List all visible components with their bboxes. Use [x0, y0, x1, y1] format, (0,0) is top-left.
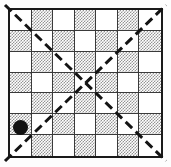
grid-cell-r6-c7 [139, 114, 161, 135]
grid-cell-r6-c4 [75, 114, 97, 135]
grid-cell-r7-c4 [75, 135, 97, 156]
figure-root [0, 0, 171, 167]
grid-cell-r3-c5 [96, 52, 118, 73]
grid-cell-r2-c1 [10, 31, 32, 52]
grid-cell-r2-c3 [53, 31, 75, 52]
grid-cell-r4-c5 [96, 73, 118, 94]
checkerboard-grid [10, 10, 161, 156]
grid-cell-r6-c6 [118, 114, 140, 135]
grid-cell-r5-c7 [139, 93, 161, 114]
grid-cell-r3-c4 [75, 52, 97, 73]
checkerboard-board [8, 8, 163, 158]
grid-cell-r6-c3 [53, 114, 75, 135]
grid-cell-r3-c7 [139, 52, 161, 73]
grid-cell-r4-c2 [32, 73, 54, 94]
grid-cell-r5-c6 [118, 93, 140, 114]
grid-cell-r1-c4 [75, 10, 97, 31]
grid-cell-r5-c3 [53, 93, 75, 114]
grid-cell-r1-c7 [139, 10, 161, 31]
grid-cell-r4-c1 [10, 73, 32, 94]
grid-cell-r7-c3 [53, 135, 75, 156]
grid-cell-r5-c1 [10, 93, 32, 114]
grid-cell-r1-c6 [118, 10, 140, 31]
grid-cell-r6-c2 [32, 114, 54, 135]
grid-cell-r7-c1 [10, 135, 32, 156]
grid-cell-r5-c4 [75, 93, 97, 114]
grid-cell-r2-c4 [75, 31, 97, 52]
grid-cell-r3-c2 [32, 52, 54, 73]
grid-cell-r7-c5 [96, 135, 118, 156]
grid-cell-r1-c1 [10, 10, 32, 31]
grid-cell-r3-c3 [53, 52, 75, 73]
grid-cell-r2-c2 [32, 31, 54, 52]
grid-cell-r2-c5 [96, 31, 118, 52]
grid-cell-r7-c7 [139, 135, 161, 156]
grid-cell-r4-c3 [53, 73, 75, 94]
grid-cell-r3-c1 [10, 52, 32, 73]
grid-cell-r1-c2 [32, 10, 54, 31]
grid-cell-r2-c6 [118, 31, 140, 52]
grid-cell-r1-c5 [96, 10, 118, 31]
grid-cell-r7-c2 [32, 135, 54, 156]
grid-cell-r2-c7 [139, 31, 161, 52]
grid-cell-r5-c5 [96, 93, 118, 114]
grid-cell-r4-c7 [139, 73, 161, 94]
grid-cell-r4-c6 [118, 73, 140, 94]
grid-cell-r4-c4 [75, 73, 97, 94]
grid-cell-r3-c6 [118, 52, 140, 73]
grid-cell-r7-c6 [118, 135, 140, 156]
marker-dot [13, 120, 28, 135]
grid-cell-r1-c3 [53, 10, 75, 31]
grid-cell-r5-c2 [32, 93, 54, 114]
grid-cell-r6-c5 [96, 114, 118, 135]
